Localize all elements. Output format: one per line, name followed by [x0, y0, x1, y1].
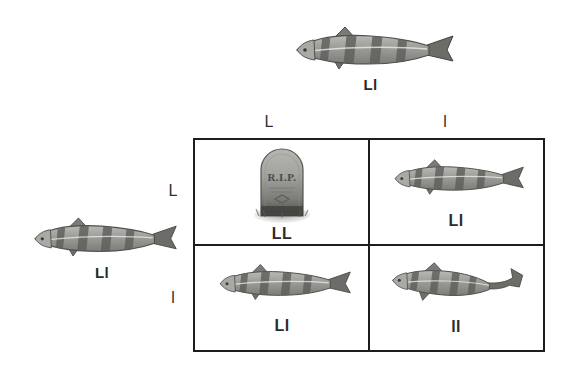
- punnett-cell-genotype: Ll: [274, 318, 289, 334]
- column-header-1: L: [229, 114, 309, 130]
- striped-fish-icon: [287, 25, 455, 71]
- row-header-2: l: [160, 290, 186, 306]
- punnett-cell-heterozygous-bottom-left[interactable]: Ll: [195, 245, 369, 350]
- striped-fish-icon: [26, 215, 178, 259]
- striped-fish-icon: [386, 261, 526, 303]
- punnett-square-grid: R.I.P.: [193, 138, 545, 352]
- punnett-cell-ll-dominant[interactable]: R.I.P.: [195, 140, 369, 245]
- parent-top-genotype: Ll: [363, 77, 377, 92]
- row-header-1: L: [160, 183, 186, 199]
- striped-fish-icon: [387, 157, 525, 197]
- parent-top: Ll: [283, 25, 458, 92]
- punnett-cell-homozygous-recessive[interactable]: ll: [369, 245, 543, 350]
- parent-left: Ll: [22, 215, 182, 280]
- parent-left-genotype: Ll: [95, 265, 109, 280]
- gravestone-icon: R.I.P.: [251, 144, 313, 224]
- punnett-cell-genotype: Ll: [448, 213, 463, 229]
- punnett-cell-genotype: ll: [451, 319, 461, 335]
- column-header-2: l: [405, 114, 485, 130]
- punnett-cell-genotype: LL: [272, 226, 292, 242]
- diagram-canvas: Ll: [0, 0, 565, 378]
- striped-fish-icon: [212, 262, 352, 302]
- svg-text:R.I.P.: R.I.P.: [267, 171, 296, 183]
- punnett-cell-heterozygous-top-right[interactable]: Ll: [369, 140, 543, 245]
